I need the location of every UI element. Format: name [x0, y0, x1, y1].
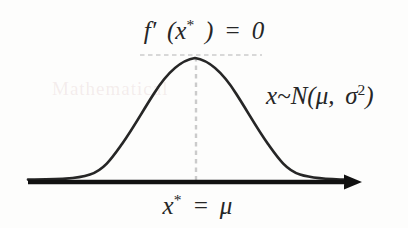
distribution-mean-symbol: μ — [316, 82, 329, 109]
figure-root: Mathematical f′ (x* ) = 0 x~N(μ, σ2) x* … — [0, 0, 408, 228]
mode-equals-mean-label: x* = μ — [0, 192, 395, 218]
distribution-open-paren: ( — [307, 82, 315, 109]
distribution-variable-symbol: x — [266, 82, 277, 109]
derivative-variable-symbol: x — [175, 17, 186, 44]
distribution-close-paren: ) — [365, 82, 373, 109]
derivative-function-symbol: f — [144, 17, 151, 44]
normal-pdf-curve — [28, 58, 348, 180]
derivative-value: 0 — [252, 17, 265, 44]
distribution-tilde-symbol: ~ — [277, 82, 291, 109]
x-axis-arrowhead-icon — [344, 175, 362, 190]
derivative-condition-label: f′ (x* ) = 0 — [0, 17, 408, 43]
distribution-family-symbol: N — [291, 82, 308, 109]
mode-equals-sign: = — [192, 192, 209, 219]
derivative-equals-sign: = — [224, 17, 241, 44]
mode-mean-symbol: μ — [220, 192, 233, 219]
distribution-spec-label: x~N(μ, σ2) — [266, 82, 374, 108]
distribution-variance-symbol: σ — [345, 82, 357, 109]
mode-variable-symbol: x — [163, 192, 174, 219]
